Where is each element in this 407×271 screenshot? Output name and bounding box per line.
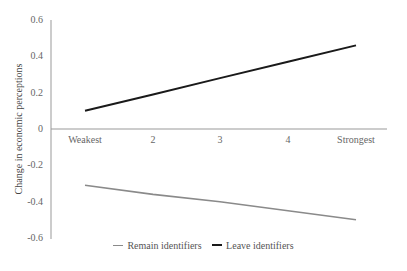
y-tick-label: -0.2: [27, 159, 43, 170]
legend-item-leave: Leave identifiers: [212, 240, 293, 251]
series-line-remain: [85, 185, 356, 220]
legend-remain-label: Remain identifiers: [127, 240, 201, 251]
line-chart: 0.60.40.20-0.2-0.4-0.6 Weakest234Stronge…: [0, 0, 407, 271]
y-axis: 0.60.40.20-0.2-0.4-0.6: [27, 14, 51, 243]
x-tick-label: 4: [286, 134, 291, 145]
y-tick-label: 0: [38, 123, 43, 134]
x-tick-label: 2: [151, 134, 156, 145]
x-tick-label: Strongest: [337, 134, 375, 145]
y-tick-label: 0.4: [31, 50, 44, 61]
y-tick-label: 0.6: [31, 14, 44, 25]
remain-swatch-icon: [113, 245, 123, 246]
series-lines: [85, 45, 356, 219]
y-tick-label: 0.2: [31, 87, 44, 98]
x-axis: Weakest234Strongest: [51, 129, 387, 145]
legend-item-remain: Remain identifiers: [113, 240, 201, 251]
legend: Remain identifiers Leave identifiers: [0, 237, 407, 251]
x-tick-label: 3: [218, 134, 223, 145]
leave-swatch-icon: [212, 244, 222, 246]
series-line-leave: [85, 45, 356, 110]
legend-leave-label: Leave identifiers: [226, 240, 293, 251]
y-axis-label: Change in economic perceptions: [13, 63, 24, 194]
y-tick-label: -0.4: [27, 196, 43, 207]
x-tick-label: Weakest: [68, 134, 102, 145]
